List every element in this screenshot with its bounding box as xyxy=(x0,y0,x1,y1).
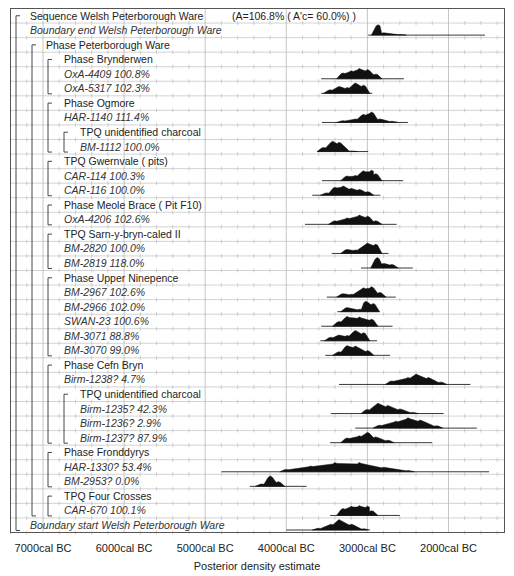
posterior-density xyxy=(328,215,382,224)
row-label-boundary: Boundary end Welsh Peterborough Ware xyxy=(30,24,222,36)
agreement-annotation: (A=106.8% ( A'c= 60.0%) ) xyxy=(232,10,356,22)
posterior-density xyxy=(324,83,370,93)
row-label-date: BM-2953? 0.0% xyxy=(64,475,139,487)
row-label-phase: Phase Upper Ninepence xyxy=(64,272,179,284)
row-label-date: BM-2819 118.0% xyxy=(64,257,144,269)
row-label-date: Birm-1237? 87.9% xyxy=(80,432,167,444)
row-label-date: OxA-5317 102.3% xyxy=(64,82,150,94)
posterior-density xyxy=(341,170,382,180)
row-label-phase: Phase Meole Brace ( Pit F10) xyxy=(64,199,202,211)
row-label-date: CAR-670 100.1% xyxy=(64,504,146,516)
posterior-density xyxy=(341,301,380,311)
x-axis-label: Posterior density estimate xyxy=(194,560,321,572)
posterior-density xyxy=(333,316,378,326)
posterior-density xyxy=(337,287,386,297)
group-bracket xyxy=(48,452,52,486)
row-label-phase: TPQ Gwernvale ( pits) xyxy=(64,155,168,167)
row-label-date: SWAN-23 100.6% xyxy=(64,315,149,327)
group-bracket xyxy=(48,496,52,516)
posterior-density xyxy=(324,330,369,340)
posterior-density xyxy=(337,68,382,78)
row-label-phase: Phase Brynderwen xyxy=(64,53,153,65)
row-label-phase: Phase Cefn Bryn xyxy=(64,359,144,371)
row-label-boundary: Boundary start Welsh Peterborough Ware xyxy=(30,519,225,531)
x-tick-label: 6000cal BC xyxy=(96,542,153,554)
row-label-date: Birm-1238? 4.7% xyxy=(64,373,145,385)
x-tick-label: 3000cal BC xyxy=(339,542,396,554)
group-bracket xyxy=(48,205,52,225)
posterior-density xyxy=(361,403,419,413)
group-bracket xyxy=(48,234,52,268)
x-axis-tick-labels: 7000cal BC6000cal BC5000cal BC4000cal BC… xyxy=(15,542,477,554)
row-label-phase: TPQ unidentified charcoal xyxy=(80,126,201,138)
posterior-density xyxy=(371,258,399,268)
posterior-density xyxy=(317,141,358,151)
row-label-date: CAR-114 100.3% xyxy=(64,170,145,182)
row-label-date: BM-2820 100.0% xyxy=(64,242,145,254)
posterior-density xyxy=(341,243,382,253)
x-tick-label: 7000cal BC xyxy=(15,542,72,554)
posterior-density xyxy=(341,432,395,442)
group-bracket xyxy=(64,132,68,152)
row-label-date: CAR-116 100.0% xyxy=(64,184,145,196)
row-label-date: BM-1112 100.0% xyxy=(80,141,160,153)
row-label-date: HAR-1330? 53.4% xyxy=(64,461,152,473)
posterior-density xyxy=(280,463,415,472)
row-label-phase: Phase Peterborough Ware xyxy=(46,39,170,51)
posterior-distributions xyxy=(221,25,489,530)
row-label-phase: TPQ Sarn-y-bryn-caled II xyxy=(64,228,181,240)
x-tick-label: 2000cal BC xyxy=(420,542,477,554)
group-bracket xyxy=(48,59,52,93)
row-label-date: BM-2967 102.6% xyxy=(64,286,145,298)
posterior-density xyxy=(255,476,284,486)
posterior-density xyxy=(373,418,443,428)
posterior-density xyxy=(337,506,378,516)
group-bracket xyxy=(48,365,52,443)
group-bracket xyxy=(16,16,20,531)
row-label-sequence: Sequence Welsh Peterborough Ware xyxy=(30,10,204,22)
group-bracket xyxy=(48,278,52,356)
row-label-date: HAR-1140 111.4% xyxy=(64,111,149,123)
posterior-density xyxy=(371,25,406,35)
row-label-date: BM-2966 102.0% xyxy=(64,301,145,313)
row-label-date: Birm-1235? 42.3% xyxy=(80,403,167,415)
posterior-density xyxy=(312,520,370,530)
group-bracket xyxy=(48,161,52,195)
row-label-phase: TPQ unidentified charcoal xyxy=(80,388,201,400)
posterior-density xyxy=(320,186,374,195)
row-label-date: Birm-1236? 2.9% xyxy=(80,417,161,429)
row-label-phase: Phase Fronddyrys xyxy=(64,446,149,458)
x-tick-label: 5000cal BC xyxy=(177,542,234,554)
row-label-date: BM-3070 99.0% xyxy=(64,344,139,356)
posterior-density xyxy=(385,374,447,384)
row-label-date: BM-3071 88.8% xyxy=(64,330,139,342)
oxcal-multiplot-chart: Sequence Welsh Peterborough Ware(A=106.8… xyxy=(0,0,514,576)
row-label-date: OxA-4206 102.6% xyxy=(64,213,150,225)
structure-brackets xyxy=(16,16,68,531)
row-label-phase: Phase Ogmore xyxy=(64,97,135,109)
x-tick-label: 4000cal BC xyxy=(258,542,315,554)
row-label-date: OxA-4409 100.8% xyxy=(64,68,150,80)
row-label-phase: TPQ Four Crosses xyxy=(64,490,152,502)
